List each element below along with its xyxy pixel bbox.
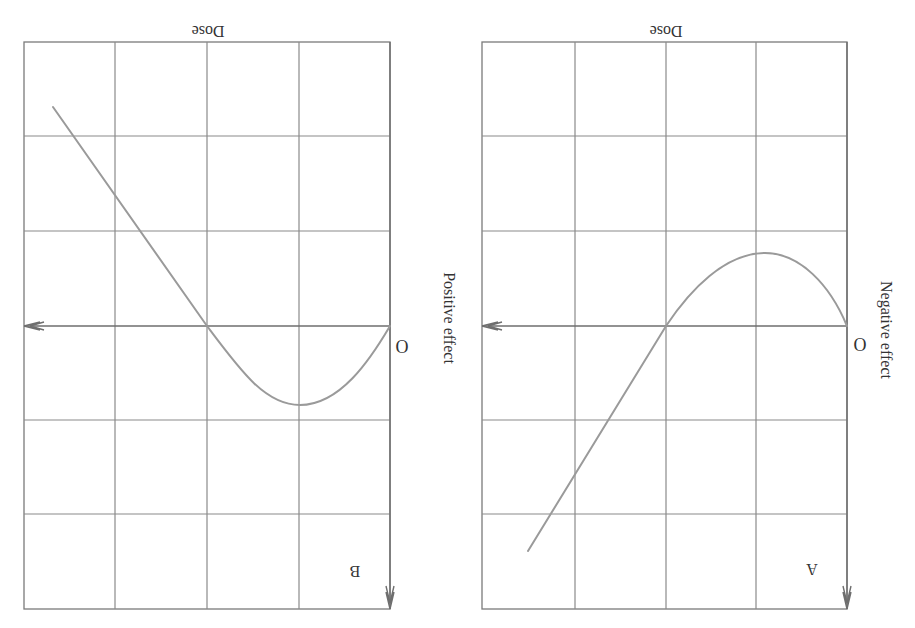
figure-canvas: Dose B O Positive effect Dose A O Negati… — [0, 0, 915, 628]
panel-b-origin-label: O — [396, 336, 409, 356]
panel-a-letter: A — [806, 561, 818, 578]
panel-a-curve — [528, 253, 847, 551]
panel-b-curve — [53, 107, 390, 405]
panel-a: Dose A O Negative effect — [482, 23, 895, 609]
panel-b: Dose B O Positive effect — [24, 23, 458, 609]
panel-b-ylabel: Positive effect — [441, 272, 458, 364]
panel-a-origin-label: O — [854, 334, 867, 354]
panel-b-letter: B — [350, 563, 361, 580]
panel-a-ylabel: Negative effect — [877, 281, 895, 379]
panel-b-xlabel: Dose — [192, 23, 225, 40]
panel-a-xlabel: Dose — [650, 23, 683, 40]
